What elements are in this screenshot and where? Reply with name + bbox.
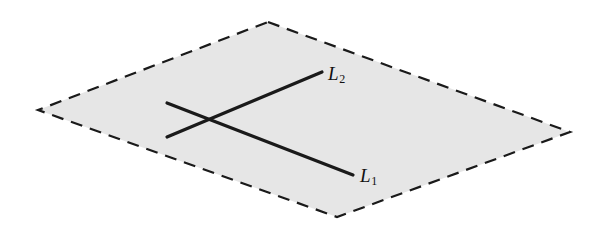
figure-canvas: L2 L1 (0, 0, 594, 228)
line-label-L1-letter: L (360, 165, 371, 186)
line-label-L1: L1 (360, 166, 377, 187)
line-label-L2-letter: L (328, 63, 339, 84)
line-label-L2-subscript: 2 (339, 72, 345, 86)
plane-region (38, 22, 570, 217)
line-label-L2: L2 (328, 64, 345, 85)
geometry-diagram (0, 0, 594, 228)
line-label-L1-subscript: 1 (371, 174, 377, 188)
